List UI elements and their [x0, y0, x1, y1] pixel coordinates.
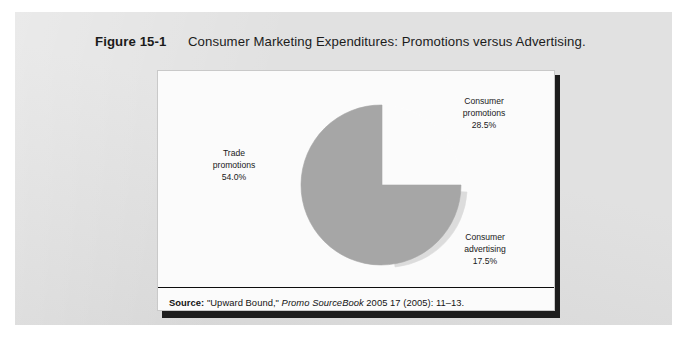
- pie-label-consumer-advertising-line1: Consumer: [465, 232, 505, 242]
- source-note: Source: "Upward Bound," Promo SourceBook…: [169, 297, 549, 308]
- figure-caption: Figure 15-1 Consumer Marketing Expenditu…: [95, 34, 655, 49]
- pie-label-consumer-advertising-line2: advertising: [464, 244, 506, 254]
- pie-chart: Consumer promotions 28.5% Trade promotio…: [158, 71, 555, 289]
- source-label: Source:: [169, 297, 204, 308]
- pie-label-consumer-promotions-value: 28.5%: [432, 119, 536, 131]
- source-quote: "Upward Bound,": [207, 297, 279, 308]
- pie-label-trade-promotions: Trade promotions 54.0%: [182, 147, 286, 184]
- figure-number: Figure 15-1: [95, 34, 166, 49]
- pie-label-trade-promotions-value: 54.0%: [182, 171, 286, 183]
- pie-label-consumer-promotions: Consumer promotions 28.5%: [432, 95, 536, 132]
- figure-title: Consumer Marketing Expenditures: Promoti…: [188, 34, 586, 49]
- pie-label-consumer-promotions-line2: promotions: [463, 108, 506, 118]
- pie-label-consumer-advertising: Consumer advertising 17.5%: [430, 231, 540, 268]
- source-publication: Promo SourceBook: [282, 297, 364, 308]
- page-panel: Figure 15-1 Consumer Marketing Expenditu…: [15, 12, 672, 325]
- pie-label-consumer-advertising-value: 17.5%: [430, 255, 540, 267]
- source-divider: [158, 287, 555, 288]
- figure-box: Consumer promotions 28.5% Trade promotio…: [157, 70, 555, 311]
- source-citation: 2005 17 (2005): 11–13.: [366, 297, 464, 308]
- pie-label-consumer-promotions-line1: Consumer: [464, 96, 504, 106]
- pie-label-trade-promotions-line1: Trade: [223, 148, 245, 158]
- pie-label-trade-promotions-line2: promotions: [213, 160, 256, 170]
